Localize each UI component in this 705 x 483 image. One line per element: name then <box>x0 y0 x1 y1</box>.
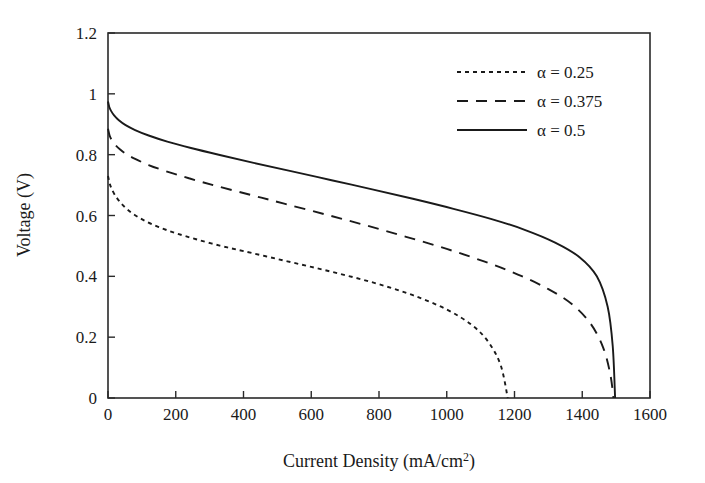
y-tick-label-0.4: 0.4 <box>76 267 98 286</box>
y-axis-ticks <box>108 33 115 398</box>
legend-label-0: α = 0.25 <box>537 63 594 82</box>
curve-series-0 <box>108 176 508 398</box>
legend-label-2: α = 0.5 <box>537 121 585 140</box>
x-tick-label-1400: 1400 <box>565 405 599 424</box>
curve-series-2 <box>108 101 615 398</box>
plot-frame <box>108 33 650 398</box>
x-tick-label-0: 0 <box>104 405 113 424</box>
y-axis-tick-labels: 00.20.40.60.811.2 <box>76 24 98 408</box>
y-axis-title: Voltage (V) <box>14 173 35 257</box>
x-axis-tick-labels: 02004006008001000120014001600 <box>104 405 667 424</box>
x-tick-label-400: 400 <box>231 405 257 424</box>
x-axis-title-tail: ) <box>469 451 475 472</box>
x-tick-label-800: 800 <box>366 405 392 424</box>
y-tick-label-1.2: 1.2 <box>76 24 97 43</box>
chart-figure: 02004006008001000120014001600 00.20.40.6… <box>0 0 705 483</box>
x-tick-label-1000: 1000 <box>430 405 464 424</box>
y-tick-label-0.2: 0.2 <box>76 328 97 347</box>
y-tick-label-0.6: 0.6 <box>76 207 97 226</box>
x-tick-label-1200: 1200 <box>498 405 532 424</box>
x-tick-label-1600: 1600 <box>633 405 667 424</box>
y-tick-label-0.8: 0.8 <box>76 146 97 165</box>
y-tick-label-0: 0 <box>89 389 98 408</box>
x-axis-ticks <box>108 391 650 398</box>
x-axis-title-main: Current Density (mA/cm <box>283 451 463 472</box>
x-axis-title: Current Density (mA/cm2) <box>283 450 475 472</box>
x-tick-label-200: 200 <box>163 405 189 424</box>
x-tick-label-600: 600 <box>299 405 325 424</box>
y-tick-label-1: 1 <box>89 85 98 104</box>
chart-legend: α = 0.25α = 0.375α = 0.5 <box>457 63 602 140</box>
data-series-group <box>108 101 615 398</box>
legend-label-1: α = 0.375 <box>537 92 602 111</box>
curve-series-1 <box>108 129 613 398</box>
chart-canvas: 02004006008001000120014001600 00.20.40.6… <box>0 0 705 483</box>
